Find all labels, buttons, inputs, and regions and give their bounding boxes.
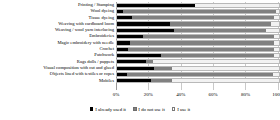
bar-segment xyxy=(117,73,127,76)
bar-track xyxy=(116,53,280,58)
bar-segment xyxy=(128,48,274,51)
bar-segment xyxy=(130,41,274,44)
x-axis-tick: 100% xyxy=(272,90,280,99)
bar-track xyxy=(116,3,280,8)
bar-segment xyxy=(127,73,273,76)
bar-segment xyxy=(172,79,279,82)
bar-segment xyxy=(117,29,174,32)
legend-label: I do not use it xyxy=(138,106,164,113)
x-axis-tick: 0% xyxy=(113,90,120,99)
bar-segment xyxy=(123,10,275,13)
bar-track xyxy=(116,40,280,45)
bar-segment xyxy=(117,67,154,70)
bar-segment xyxy=(271,22,279,25)
x-axis-tick: 80% xyxy=(241,90,250,99)
bar-segment xyxy=(273,73,279,76)
bar-segment xyxy=(174,29,266,32)
bar-segment xyxy=(266,29,279,32)
legend-item[interactable]: I already used it xyxy=(90,106,126,113)
bar-segment xyxy=(195,4,279,7)
legend-item[interactable]: I do not use it xyxy=(133,106,165,113)
bar-segment xyxy=(117,60,146,63)
bar-segment xyxy=(117,16,132,19)
bar-segment xyxy=(154,67,172,70)
bar-segment xyxy=(274,16,279,19)
bar-segment xyxy=(117,79,151,82)
bar-track xyxy=(116,21,280,26)
x-axis-tick: 40% xyxy=(176,90,185,99)
legend-label: I already used it xyxy=(95,106,126,113)
category-label: Mobiles xyxy=(0,78,116,84)
stacked-bar-chart: Printing / StampingWool dyeingTissue dye… xyxy=(0,0,280,120)
bar-track xyxy=(116,72,280,77)
bar-segment xyxy=(117,54,161,57)
bar-segment xyxy=(151,79,172,82)
x-axis-tick: 20% xyxy=(144,90,153,99)
bar-segment xyxy=(276,10,279,13)
bar-segment xyxy=(274,41,279,44)
plot-area: Printing / StampingWool dyeingTissue dye… xyxy=(0,2,280,90)
bar-track xyxy=(116,9,280,14)
x-axis: 0%20%40%60%80%100% xyxy=(116,90,278,99)
x-axis-tick: 60% xyxy=(209,90,218,99)
bar-segment xyxy=(161,54,274,57)
bar-track xyxy=(116,66,280,71)
chart-row: Mobiles xyxy=(0,78,280,84)
legend-swatch-icon xyxy=(133,107,137,111)
bar-segment xyxy=(170,22,270,25)
bar-segment xyxy=(117,41,130,44)
bar-segment xyxy=(117,35,143,38)
bar-segment xyxy=(132,16,275,19)
bar-segment xyxy=(143,35,274,38)
legend-swatch-icon xyxy=(172,107,176,111)
bar-segment xyxy=(117,48,128,51)
bar-segment xyxy=(153,60,279,63)
legend-label: I use it xyxy=(177,106,190,113)
bar-track xyxy=(116,15,280,20)
bar-segment xyxy=(172,67,279,70)
bar-segment xyxy=(117,22,170,25)
bar-track xyxy=(116,34,280,39)
bar-segment xyxy=(117,4,195,7)
bar-segment xyxy=(274,35,279,38)
chart-legend: I already used itI do not use itI use it xyxy=(0,103,280,115)
legend-swatch-icon xyxy=(90,107,94,111)
bar-segment xyxy=(274,54,279,57)
bar-segment xyxy=(274,48,279,51)
bar-track xyxy=(116,59,280,64)
bar-rows: Printing / StampingWool dyeingTissue dye… xyxy=(0,2,280,84)
bar-track xyxy=(116,78,280,83)
bar-track xyxy=(116,47,280,52)
bar-track xyxy=(116,28,280,33)
legend-item[interactable]: I use it xyxy=(172,106,190,113)
